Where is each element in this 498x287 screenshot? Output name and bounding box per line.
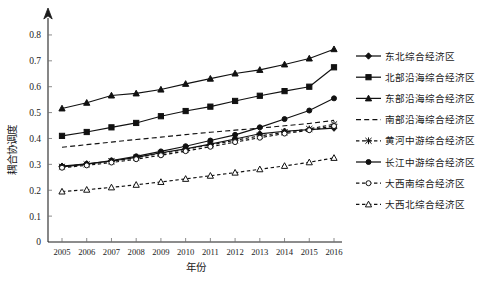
data-point (307, 108, 312, 113)
data-point (282, 117, 287, 122)
data-point (134, 157, 139, 162)
data-point (282, 89, 287, 94)
data-point (282, 131, 287, 136)
data-point (109, 160, 114, 165)
x-tick-label: 2008 (128, 247, 145, 257)
legend-item-3[interactable]: 东部沿海综合经济区 (356, 93, 475, 104)
data-point (158, 153, 163, 158)
axes (44, 8, 342, 242)
data-point (257, 93, 262, 98)
x-tick-label: 2014 (276, 247, 294, 257)
data-point (183, 149, 188, 154)
y-tick-label: 0.2 (29, 186, 41, 196)
x-tick-label: 2015 (301, 247, 318, 257)
data-point (208, 104, 213, 109)
legend-swatch-marker (366, 75, 371, 80)
data-point (332, 124, 337, 129)
data-point (158, 179, 164, 185)
legend-label: 东北综合经济区 (385, 51, 455, 62)
data-point (183, 144, 188, 149)
x-axis-title: 年份 (186, 261, 207, 273)
legend-item-1[interactable]: 东北综合经济区 (356, 51, 455, 62)
y-tick-label: 0.6 (29, 82, 41, 92)
series-line (62, 67, 334, 136)
legend-swatch-marker (365, 137, 372, 144)
y-axis-ticks: 00.10.20.30.40.50.60.70.8 (29, 30, 52, 247)
y-tick-label: 0.5 (29, 108, 41, 118)
svg-text:耦合协调度: 耦合协调度 (6, 124, 18, 175)
y-axis-title: 耦合协调度 (6, 124, 18, 175)
data-point (183, 108, 188, 113)
x-tick-label: 2013 (251, 247, 268, 257)
x-tick-label: 2005 (53, 247, 70, 257)
legend-label: 南部沿海综合经济区 (385, 114, 475, 125)
legend-label: 黄河中游综合经济区 (385, 135, 475, 146)
legend-item-4[interactable]: 南部沿海综合经济区 (356, 114, 475, 125)
x-axis-ticks: 2005200620072008200920102011201220132014… (53, 238, 343, 257)
line-chart: 00.10.20.30.40.50.60.70.8200520062007200… (0, 0, 498, 287)
data-point (208, 138, 213, 143)
data-point (108, 184, 114, 190)
y-tick-label: 0.8 (29, 30, 41, 40)
legend-label: 长江中游综合经济区 (385, 157, 475, 168)
plot-area (59, 46, 338, 194)
legend-swatch-marker (366, 160, 371, 165)
series-line (62, 124, 334, 166)
data-point (332, 96, 337, 101)
x-tick-label: 2009 (152, 247, 169, 257)
data-point (233, 132, 238, 137)
svg-text:年份: 年份 (186, 261, 207, 273)
x-tick-label: 2006 (78, 247, 96, 257)
data-point (257, 135, 262, 140)
data-point (109, 125, 114, 130)
legend-label: 东部沿海综合经济区 (385, 93, 475, 104)
y-tick-label: 0 (36, 237, 41, 247)
legend-label: 大西南综合经济区 (385, 178, 465, 189)
y-tick-label: 0.1 (29, 212, 41, 222)
series-line (62, 49, 334, 108)
data-point (281, 163, 287, 169)
legend: 东北综合经济区北部沿海综合经济区东部沿海综合经济区南部沿海综合经济区黄河中游综合… (356, 51, 475, 210)
y-tick-label: 0.4 (29, 134, 41, 144)
data-point (331, 46, 337, 52)
series-line (62, 158, 334, 192)
data-point (306, 159, 312, 165)
data-point (208, 144, 213, 149)
legend-item-6[interactable]: 长江中游综合经济区 (356, 157, 475, 168)
data-point (307, 128, 312, 133)
data-point (60, 165, 65, 170)
x-tick-label: 2016 (325, 247, 343, 257)
y-axis-arrow (44, 8, 52, 19)
legend-label: 北部沿海综合经济区 (385, 72, 475, 83)
data-point (158, 114, 163, 119)
data-point (232, 98, 237, 103)
data-point (134, 120, 139, 125)
y-tick-label: 0.3 (29, 160, 41, 170)
legend-item-7[interactable]: 大西南综合经济区 (356, 178, 465, 189)
series-8 (59, 155, 337, 194)
series-5 (59, 121, 338, 170)
series-3 (59, 46, 337, 111)
data-point (59, 133, 64, 138)
legend-item-2[interactable]: 北部沿海综合经济区 (356, 72, 475, 83)
data-point (84, 129, 89, 134)
data-point (84, 163, 89, 168)
series-2 (59, 65, 336, 139)
data-point (257, 125, 262, 130)
legend-label: 大西北综合经济区 (385, 199, 465, 210)
legend-swatch-marker (366, 181, 371, 186)
y-tick-label: 0.7 (29, 56, 41, 66)
chart-figure: 00.10.20.30.40.50.60.70.8200520062007200… (0, 0, 498, 287)
legend-item-5[interactable]: 黄河中游综合经济区 (356, 135, 475, 146)
data-point (331, 155, 337, 161)
x-tick-label: 2010 (177, 247, 194, 257)
x-tick-label: 2007 (103, 247, 121, 257)
series-line (62, 128, 334, 166)
data-point (233, 140, 238, 145)
data-point (307, 84, 312, 89)
data-point (331, 65, 336, 70)
x-tick-label: 2012 (226, 247, 243, 257)
legend-swatch-marker (366, 53, 372, 59)
legend-item-8[interactable]: 大西北综合经济区 (356, 199, 465, 210)
x-tick-label: 2011 (202, 247, 219, 257)
